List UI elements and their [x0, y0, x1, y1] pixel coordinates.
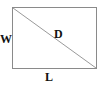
diagonal-label: D [54, 27, 63, 41]
width-label: W [0, 32, 12, 46]
length-label: L [45, 70, 53, 84]
rectangle-diagonal-diagram: W D L [0, 0, 104, 85]
